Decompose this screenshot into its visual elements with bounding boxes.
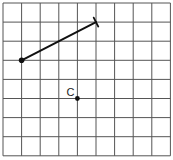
point-dot — [75, 96, 80, 101]
segment-start-dot — [19, 58, 25, 64]
point-label: C — [66, 86, 74, 98]
grid-diagram: C — [0, 0, 173, 160]
